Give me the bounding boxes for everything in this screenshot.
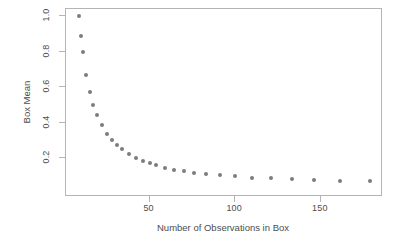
data-point — [110, 138, 114, 142]
data-point — [148, 161, 152, 165]
scatter-chart: 0.20.40.60.81.0 50100150 Box Mean Number… — [0, 0, 402, 243]
plot-area — [66, 9, 381, 195]
data-point — [182, 169, 186, 173]
y-tick-label: 0.8 — [41, 44, 51, 57]
y-axis-title: Box Mean — [21, 81, 32, 124]
data-point — [338, 179, 342, 183]
y-tick-label: 0.2 — [41, 150, 51, 163]
data-point — [141, 159, 145, 163]
data-point — [172, 168, 176, 172]
x-tick — [149, 196, 150, 202]
x-tick-label: 150 — [312, 203, 328, 213]
data-point — [250, 176, 254, 180]
x-axis-title: Number of Observations in Box — [157, 222, 289, 233]
data-point — [81, 50, 85, 54]
data-point — [218, 173, 222, 177]
y-tick-label: 0.4 — [41, 115, 51, 128]
data-point — [154, 163, 158, 167]
x-tick — [234, 196, 235, 202]
data-point — [127, 152, 131, 156]
data-point — [134, 156, 138, 160]
data-point — [312, 178, 316, 182]
data-point — [88, 90, 92, 94]
data-point — [95, 113, 99, 117]
y-tick-label: 1.0 — [41, 8, 51, 21]
data-point — [105, 132, 109, 136]
data-point — [100, 123, 104, 127]
data-point — [368, 179, 372, 183]
data-point — [79, 34, 83, 38]
x-tick — [320, 196, 321, 202]
x-tick-label: 100 — [226, 203, 242, 213]
data-point — [290, 177, 294, 181]
data-point — [77, 14, 81, 18]
data-point — [163, 166, 167, 170]
data-point — [120, 147, 124, 151]
x-tick-label: 50 — [143, 203, 153, 213]
data-point — [84, 73, 88, 77]
y-tick-label: 0.6 — [41, 79, 51, 92]
data-point — [91, 103, 95, 107]
data-point — [233, 174, 237, 178]
data-point — [192, 171, 196, 175]
data-point — [204, 172, 208, 176]
plot-frame — [65, 8, 382, 196]
data-point — [115, 143, 119, 147]
data-point — [269, 176, 273, 180]
